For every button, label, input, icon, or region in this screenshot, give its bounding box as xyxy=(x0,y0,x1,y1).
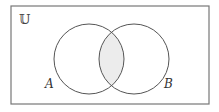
universe-label: 𝕌 xyxy=(19,12,31,27)
set-b-label: B xyxy=(163,77,173,91)
set-a-label: A xyxy=(44,77,54,91)
venn-diagram: 𝕌 A B xyxy=(0,0,219,112)
